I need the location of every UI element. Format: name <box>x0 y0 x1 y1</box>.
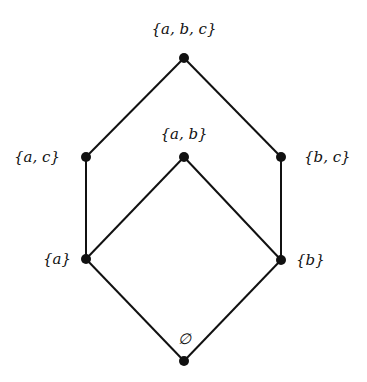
node-a <box>81 254 91 264</box>
label-empty: ∅ <box>178 330 192 348</box>
label-a: {a} <box>43 250 71 268</box>
node-abc <box>179 53 189 63</box>
edge-b-empty <box>184 260 281 361</box>
node-b <box>276 255 286 265</box>
label-abc: {a, b, c} <box>151 20 216 38</box>
label-b: {b} <box>296 251 325 269</box>
edge-ab-b <box>184 157 281 260</box>
labels: {a, b, c}{a, c}{a, b}{b, c}{a}{b}∅ <box>14 20 351 348</box>
node-empty <box>179 356 189 366</box>
node-bc <box>276 152 286 162</box>
nodes <box>81 53 286 366</box>
edge-ab-a <box>86 157 184 259</box>
label-ab: {a, b} <box>160 125 207 143</box>
label-bc: {b, c} <box>304 148 351 166</box>
label-ac: {a, c} <box>14 148 60 166</box>
edges <box>86 58 281 361</box>
hasse-diagram: {a, b, c}{a, c}{a, b}{b, c}{a}{b}∅ <box>0 0 367 382</box>
edge-a-empty <box>86 259 184 361</box>
node-ab <box>179 152 189 162</box>
node-ac <box>81 152 91 162</box>
